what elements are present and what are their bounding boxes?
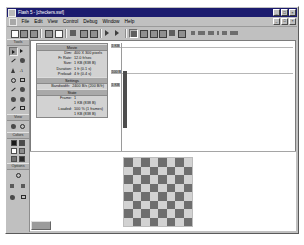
maximize-button[interactable]: □ [281,9,288,16]
stroke-color-swatch[interactable] [11,140,17,146]
checkerboard-cell [167,175,176,184]
checkerboard-cell [141,192,150,201]
checkerboard-cell [141,218,150,227]
menu-item-debug[interactable]: Debug [81,19,100,24]
checkerboard[interactable] [124,158,192,226]
brush-tool[interactable] [18,85,27,94]
oval-tool[interactable] [9,76,18,85]
copy-button[interactable] [79,29,88,38]
space-evenly-button[interactable] [230,31,238,35]
checkerboard-cell [133,218,142,227]
dropper-tool[interactable] [9,104,18,113]
new-document-button[interactable] [9,29,18,38]
align-right-button[interactable] [208,31,214,35]
alignment-toolbar [191,31,238,35]
checkerboard-cell [184,209,193,218]
document-icon[interactable] [9,18,17,26]
profiler-key-frame: Frame: [60,96,72,101]
profiler-key-bandwidth: Bandwidth: [51,84,70,89]
open-document-button[interactable] [19,29,28,38]
color-row-defaults [7,147,29,155]
close-button[interactable]: × [289,9,296,16]
checkerboard-cell [175,175,184,184]
straighten-option-button[interactable] [19,182,28,191]
zoom-tool[interactable] [18,122,27,131]
arrow-tool[interactable] [9,47,18,56]
no-color-button[interactable] [11,156,17,162]
checkerboard-cell [175,201,184,210]
menu-item-help[interactable]: Help [122,19,137,24]
save-document-button[interactable] [28,29,37,38]
magnet-option-button[interactable] [14,171,23,180]
black-white-button[interactable] [19,156,25,162]
fill-color-swatch[interactable] [19,140,25,146]
distribute-button[interactable] [217,31,219,35]
checkerboard-cell [150,158,159,167]
print-button[interactable] [44,29,53,38]
profiler-value-preload: 4 fr (0.4 s) [74,72,104,77]
stage-scroll-handle[interactable] [31,221,51,230]
straighten-button[interactable] [148,29,157,38]
menu-item-edit[interactable]: Edit [32,19,45,24]
paint-bucket-tool[interactable] [18,95,27,104]
pen-tool[interactable] [9,66,18,75]
smooth-button[interactable] [139,29,148,38]
checkerboard-cell [141,175,150,184]
rotate-option-button[interactable] [8,193,17,202]
checkerboard-cell [150,218,159,227]
default-colors-button[interactable] [11,148,17,154]
align-left-button[interactable] [191,31,195,35]
align-center-button[interactable] [198,31,205,35]
doc-close-button[interactable]: × [289,18,296,25]
menu-item-window[interactable]: Window [100,19,122,24]
undo-button[interactable] [104,29,113,38]
checkerboard-cell [167,192,176,201]
ink-bottle-tool[interactable] [9,95,18,104]
pencil-tool[interactable] [9,85,18,94]
options-row-3 [7,192,29,203]
checkerboard-cell [184,184,193,193]
checkerboard-cell [150,184,159,193]
checkerboard-cell [184,175,193,184]
align-button[interactable] [177,29,186,38]
redo-button[interactable] [113,29,122,38]
checkerboard-cell [158,184,167,193]
minimize-button[interactable]: _ [273,9,280,16]
graph-bar-frame-1[interactable] [123,71,127,128]
profiler-section-state: State [37,89,107,96]
checkerboard-cell [167,201,176,210]
snap-to-objects-button[interactable] [129,29,138,38]
smooth-option-button[interactable] [8,182,17,191]
match-size-button[interactable] [222,31,227,35]
doc-restore-button[interactable]: □ [281,18,288,25]
hand-tool[interactable] [9,122,18,131]
profiler-value-bandwidth: 2400 B/s (200 B/fr) [72,84,104,89]
rectangle-tool[interactable] [18,76,27,85]
paste-button[interactable] [88,29,97,38]
menu-item-control[interactable]: Control [60,19,80,24]
profiler-key-preload: Preload: [58,72,72,77]
eraser-tool[interactable] [18,104,27,113]
bandwidth-profiler-info: Movie Dim: 400 X 300 pixels Fr Rate: 12.… [36,43,108,118]
checkerboard-cell [133,192,142,201]
checkerboard-cell [175,167,184,176]
text-tool[interactable]: A [18,66,27,75]
menu-item-file[interactable]: File [19,19,32,24]
checkerboard-cell [124,167,133,176]
cut-button[interactable] [69,29,78,38]
lasso-tool[interactable] [18,56,27,65]
scale-button[interactable] [167,29,176,38]
menu-item-view[interactable]: View [45,19,60,24]
profiler-section-settings: Settings [37,77,107,84]
swap-colors-button[interactable] [19,148,25,154]
scale-option-button[interactable] [19,193,28,202]
color-row-stroke-fill [7,139,29,147]
graph-ytick-3: 1 KB [111,83,120,87]
print-preview-button[interactable] [53,29,62,38]
doc-minimize-button[interactable]: _ [273,18,280,25]
checkerboard-cell [158,175,167,184]
line-tool[interactable] [9,56,18,65]
subselect-tool[interactable] [18,47,27,56]
checkerboard-cell [124,158,133,167]
rotate-button[interactable] [158,29,167,38]
